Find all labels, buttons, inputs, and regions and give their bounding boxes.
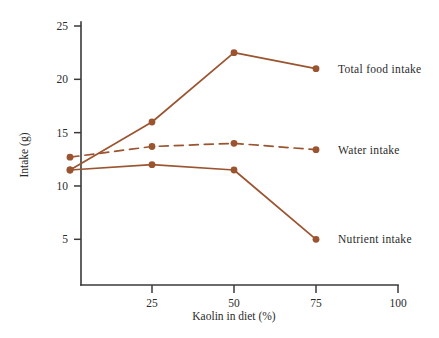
series-layer (67, 49, 320, 242)
data-point-marker (149, 161, 156, 168)
x-tick-label: 100 (389, 297, 407, 309)
series-labels: Total food intakeWater intakeNutrient in… (338, 63, 422, 246)
x-axis-title: Kaolin in diet (%) (192, 310, 276, 323)
data-point-marker (231, 140, 238, 147)
y-tick-label: 15 (57, 127, 69, 139)
series-label-3: Nutrient intake (338, 233, 412, 245)
series-1 (67, 49, 320, 173)
y-tick-label: 25 (57, 20, 69, 32)
x-tick-label: 25 (146, 297, 158, 309)
series-line (70, 143, 316, 157)
x-tick-label: 50 (228, 297, 240, 309)
line-chart: 510152025 255075100 Total food intakeWat… (0, 0, 439, 338)
data-point-marker (67, 167, 74, 174)
data-point-marker (67, 154, 74, 161)
series-label-1: Total food intake (338, 63, 422, 75)
data-point-marker (313, 65, 320, 72)
series-line (70, 165, 316, 240)
y-tick-label: 10 (57, 180, 69, 192)
data-point-marker (313, 146, 320, 153)
y-tick-label: 20 (57, 73, 69, 85)
x-tick-label: 75 (310, 297, 322, 309)
data-point-marker (313, 236, 320, 243)
data-point-marker (231, 167, 238, 174)
series-3 (67, 161, 320, 242)
data-point-marker (149, 143, 156, 150)
y-axis-title: Intake (g) (18, 132, 31, 177)
series-label-2: Water intake (338, 144, 400, 156)
data-point-marker (231, 49, 238, 56)
y-axis-ticks: 510152025 (57, 20, 82, 245)
x-axis-ticks: 255075100 (146, 285, 407, 309)
chart-container: 510152025 255075100 Total food intakeWat… (0, 0, 439, 338)
y-tick-label: 5 (62, 233, 68, 245)
data-point-marker (149, 119, 156, 126)
